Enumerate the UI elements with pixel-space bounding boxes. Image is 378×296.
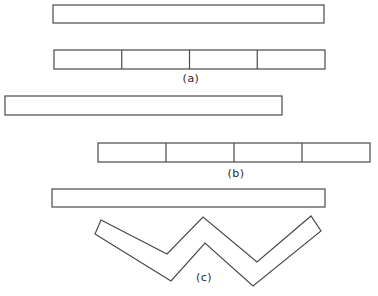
label-b: (b)	[227, 167, 244, 180]
figure-canvas: (a) (b) (c)	[0, 0, 378, 296]
strip-diagram	[0, 0, 378, 296]
strip-b-whole	[5, 96, 282, 115]
label-c: (c)	[196, 271, 212, 284]
strip-c-whole	[52, 189, 325, 207]
strip-a-whole	[53, 5, 324, 23]
label-a: (a)	[183, 72, 200, 85]
